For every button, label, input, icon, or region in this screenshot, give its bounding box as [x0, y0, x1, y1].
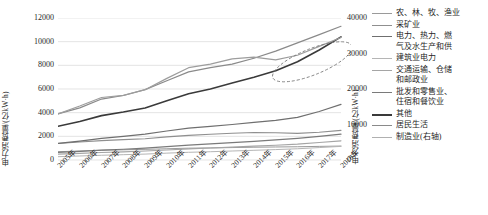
legend-label: 农、林、牧、渔业 [396, 8, 460, 19]
legend-color-swatch [372, 132, 392, 142]
series-line [58, 38, 341, 114]
chart-legend: 农、林、牧、渔业采矿业电力、热力、燃 气及水生产和供建筑业电力交通运输、仓储 和… [372, 8, 488, 143]
legend-item[interactable]: 电力、热力、燃 气及水生产和供 [372, 31, 488, 52]
legend-label: 采矿业 [396, 20, 420, 31]
legend-item[interactable]: 采矿业 [372, 20, 488, 31]
y-axis-title-left: 电力消费量/(亿kW·h) [2, 36, 10, 166]
highlight-ellipse-annotation [268, 34, 351, 90]
y-tick-left: 4000 [6, 109, 54, 117]
legend-item[interactable]: 制造业(右轴) [372, 132, 488, 143]
legend-item[interactable]: 建筑业电力 [372, 53, 488, 64]
legend-item[interactable]: 其他 [372, 109, 488, 120]
legend-color-swatch [372, 87, 392, 97]
legend-label: 制造业(右轴) [396, 132, 441, 143]
chart-figure: 电力消费量/(亿kW·h) 02000400060008000100001200… [0, 0, 488, 215]
series-line [58, 104, 341, 143]
y-tick-left: 10000 [6, 38, 54, 46]
legend-item[interactable]: 批发和零售业、 住宿和餐饮业 [372, 87, 488, 108]
series-line [58, 130, 341, 143]
legend-label: 电力、热力、燃 气及水生产和供 [396, 31, 452, 52]
y-tick-left: 2000 [6, 132, 54, 140]
legend-color-swatch [372, 65, 392, 75]
y-axis-title-right: 电力消费量/(亿kW·h) [352, 44, 360, 164]
y-tick-left: 6000 [6, 85, 54, 93]
legend-color-swatch [372, 31, 392, 41]
legend-item[interactable]: 交通运输、仓储 和邮政业 [372, 65, 488, 86]
legend-color-swatch [372, 109, 392, 119]
legend-color-swatch [372, 120, 392, 130]
legend-label: 其他 [396, 109, 412, 120]
legend-item[interactable]: 居民生活 [372, 120, 488, 131]
y-tick-right: 40000 [347, 14, 367, 22]
legend-label: 建筑业电力 [396, 53, 436, 64]
legend-color-swatch [372, 53, 392, 63]
legend-label: 交通运输、仓储 和邮政业 [396, 65, 452, 86]
plot-area [58, 18, 341, 160]
legend-label: 居民生活 [396, 120, 428, 131]
chart-canvas [58, 18, 351, 162]
y-tick-left: 8000 [6, 61, 54, 69]
series-line [58, 26, 341, 114]
legend-color-swatch [372, 20, 392, 30]
legend-item[interactable]: 农、林、牧、渔业 [372, 8, 488, 19]
y-tick-left: 0 [6, 156, 54, 164]
legend-color-swatch [372, 8, 392, 18]
legend-label: 批发和零售业、 住宿和餐饮业 [396, 87, 452, 108]
y-tick-left: 12000 [6, 14, 54, 22]
